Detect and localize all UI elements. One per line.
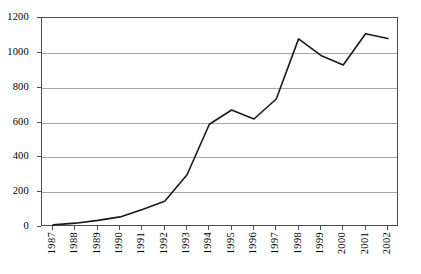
x-tick-label: 2000: [337, 232, 348, 254]
x-tick-label: 1993: [181, 232, 192, 254]
x-tick-mark: [320, 226, 321, 230]
x-tick-mark: [164, 226, 165, 230]
x-tick-mark: [119, 226, 120, 230]
x-tick-label: 1991: [136, 232, 147, 254]
x-tick-label: 1988: [69, 232, 80, 254]
x-tick-mark: [97, 226, 98, 230]
x-tick-mark: [253, 226, 254, 230]
x-tick-mark: [52, 226, 53, 230]
line-chart: 020040060080010001200 198719881989199019…: [0, 0, 421, 274]
x-tick-label: 2001: [360, 232, 371, 254]
x-tick-label: 1997: [270, 232, 281, 254]
x-tick-label: 1995: [226, 232, 237, 254]
x-tick-mark: [141, 226, 142, 230]
x-tick-label: 1999: [315, 232, 326, 254]
x-tick-mark: [208, 226, 209, 230]
x-tick-label: 1998: [293, 232, 304, 254]
x-tick-mark: [275, 226, 276, 230]
x-tick-label: 1994: [203, 232, 214, 254]
x-tick-mark: [231, 226, 232, 230]
x-tick-mark: [74, 226, 75, 230]
x-tick-mark: [387, 226, 388, 230]
x-tick-label: 2002: [382, 232, 393, 254]
x-tick-label: 1992: [159, 232, 170, 254]
x-tick-label: 1996: [248, 232, 259, 254]
x-tick-label: 1989: [92, 232, 103, 254]
x-tick-mark: [298, 226, 299, 230]
x-tick-label: 1990: [114, 232, 125, 254]
x-tick-mark: [365, 226, 366, 230]
x-tick-mark: [342, 226, 343, 230]
x-axis: 1987198819891990199119921993199419951996…: [0, 0, 421, 274]
x-tick-mark: [186, 226, 187, 230]
x-tick-label: 1987: [47, 232, 58, 254]
